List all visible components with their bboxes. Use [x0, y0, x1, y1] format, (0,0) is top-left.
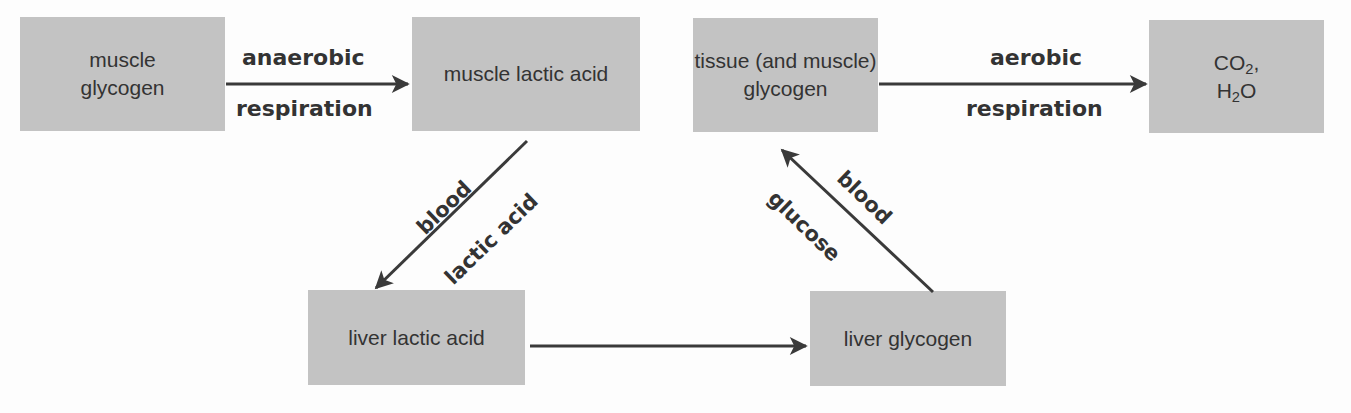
label-anaerobic-respiration: respiration [236, 96, 373, 121]
label-aerobic: aerobic [990, 45, 1082, 70]
label-aerobic-respiration: respiration [966, 96, 1103, 121]
label-anaerobic: anaerobic [242, 45, 365, 70]
arrows-layer [0, 0, 1351, 413]
